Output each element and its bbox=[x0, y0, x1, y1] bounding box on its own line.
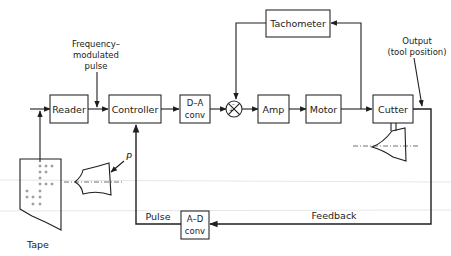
feedback-label: Feedback bbox=[311, 210, 357, 221]
p-label: P bbox=[126, 151, 132, 162]
da-conv-block: D–A conv bbox=[180, 95, 210, 123]
controller-block: Controller bbox=[109, 95, 161, 123]
ad-conv-block: A–D conv bbox=[181, 211, 209, 239]
cutter-label: Cutter bbox=[378, 104, 408, 115]
output-pointer-arrow bbox=[414, 58, 422, 106]
tachometer-label: Tachometer bbox=[269, 18, 326, 29]
summing-junction: + – bbox=[226, 101, 242, 117]
reader-block: Reader bbox=[50, 95, 88, 123]
tachometer-block: Tachometer bbox=[266, 10, 330, 37]
da-conv-label-line1: D–A bbox=[187, 98, 204, 108]
minus-sign: – bbox=[232, 101, 235, 107]
motor-block: Motor bbox=[306, 95, 341, 123]
nc-control-diagram: Reader Frequency– modulated pulse Contro… bbox=[0, 0, 451, 256]
p-pointer-arrow bbox=[111, 161, 124, 172]
da-conv-label-line2: conv bbox=[185, 110, 205, 120]
plus-sign: + bbox=[229, 107, 234, 113]
amp-block: Amp bbox=[258, 95, 289, 123]
tachometer-to-junction-arrow bbox=[236, 23, 266, 99]
amp-label: Amp bbox=[263, 104, 285, 115]
pulse-label: Pulse bbox=[145, 211, 170, 222]
cutter-tool-icon bbox=[353, 123, 418, 161]
reader-label: Reader bbox=[52, 104, 86, 115]
freq-label-line2: modulated bbox=[73, 50, 119, 60]
cutter-block: Cutter bbox=[373, 95, 413, 123]
punched-tape-icon bbox=[20, 159, 61, 230]
part-profile-icon bbox=[64, 163, 124, 195]
ad-to-controller-arrow bbox=[136, 125, 181, 224]
feedback-line bbox=[210, 109, 431, 224]
freq-label-line1: Frequency– bbox=[72, 39, 120, 49]
tape-label: Tape bbox=[26, 239, 49, 250]
ad-conv-label-line1: A–D bbox=[187, 214, 204, 224]
output-label-line1: Output bbox=[402, 36, 432, 46]
controller-label: Controller bbox=[112, 104, 159, 115]
freq-label-line3: pulse bbox=[85, 61, 108, 71]
scan-artifact bbox=[0, 210, 451, 211]
output-label-line2: (tool position) bbox=[387, 47, 446, 57]
motor-label: Motor bbox=[310, 104, 338, 115]
ad-conv-label-line2: conv bbox=[185, 226, 205, 236]
